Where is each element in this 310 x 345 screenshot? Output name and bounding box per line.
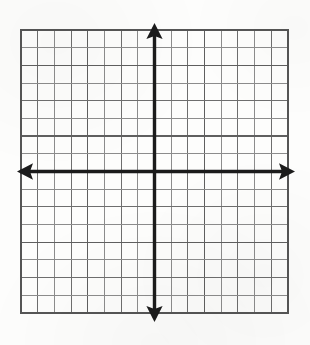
coordinate-grid-figure <box>0 0 310 345</box>
coordinate-plane-svg <box>0 0 310 345</box>
